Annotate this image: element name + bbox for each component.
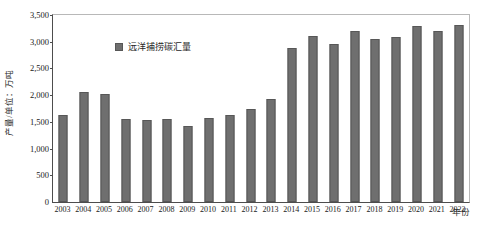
y-tick-mark (50, 122, 53, 123)
x-tick-label: 2004 (75, 205, 91, 214)
bar[interactable] (225, 115, 234, 202)
bar[interactable] (142, 120, 151, 202)
y-axis-tick-labels: 05001,0001,5002,0002,5003,0003,500 (14, 0, 52, 210)
plot-area: 远洋捕捞碳汇量 (52, 14, 470, 203)
x-tick-label: 2015 (304, 205, 320, 214)
bar[interactable] (288, 48, 297, 202)
bar[interactable] (246, 109, 255, 202)
x-axis-title: 年份 (452, 205, 470, 217)
x-tick-label: 2014 (283, 205, 299, 214)
bar-slot (323, 15, 344, 202)
bar-slot (219, 15, 240, 202)
legend: 远洋捕捞碳汇量 (115, 40, 191, 53)
y-tick-label: 0 (45, 197, 49, 207)
bar-slot (303, 15, 324, 202)
x-tick-label: 2021 (429, 205, 445, 214)
bar[interactable] (121, 119, 130, 202)
bar-slot (261, 15, 282, 202)
y-tick-label: 2,000 (30, 90, 49, 100)
x-tick-label: 2007 (138, 205, 154, 214)
bar[interactable] (80, 92, 89, 202)
y-tick-mark (50, 42, 53, 43)
x-tick-label: 2018 (366, 205, 382, 214)
bar-chart-figure: 产量/单位：万吨 05001,0001,5002,0002,5003,0003,… (0, 0, 482, 237)
y-tick-label: 1,500 (30, 117, 49, 127)
x-tick-label: 2013 (262, 205, 278, 214)
bar[interactable] (454, 25, 463, 202)
legend-label: 远洋捕捞碳汇量 (128, 40, 191, 53)
bar[interactable] (308, 36, 317, 202)
y-tick-mark (50, 149, 53, 150)
y-tick-mark (50, 15, 53, 16)
bar-slot (199, 15, 220, 202)
y-tick-mark (50, 175, 53, 176)
x-tick-label: 2016 (325, 205, 341, 214)
x-tick-label: 2008 (158, 205, 174, 214)
x-tick-label: 2010 (200, 205, 216, 214)
x-tick-label: 2011 (221, 205, 237, 214)
bar-slot (95, 15, 116, 202)
bar[interactable] (163, 119, 172, 202)
bar[interactable] (329, 44, 338, 202)
bar[interactable] (100, 94, 109, 202)
bar-slot (407, 15, 428, 202)
x-tick-label: 2019 (387, 205, 403, 214)
bar[interactable] (392, 37, 401, 202)
x-tick-label: 2017 (346, 205, 362, 214)
y-tick-label: 3,000 (30, 37, 49, 47)
bar[interactable] (204, 118, 213, 202)
x-tick-label: 2003 (54, 205, 70, 214)
bar-slot (365, 15, 386, 202)
bar[interactable] (59, 115, 68, 202)
bar[interactable] (350, 31, 359, 202)
bar[interactable] (433, 31, 442, 202)
bar-slot (74, 15, 95, 202)
y-tick-mark (50, 95, 53, 96)
bar[interactable] (267, 99, 276, 202)
bar[interactable] (371, 39, 380, 202)
x-tick-label: 2020 (408, 205, 424, 214)
x-tick-label: 2005 (96, 205, 112, 214)
bar[interactable] (184, 126, 193, 202)
x-tick-label: 2006 (117, 205, 133, 214)
bar-slot (53, 15, 74, 202)
y-tick-mark (50, 68, 53, 69)
bar-slot (344, 15, 365, 202)
bar-slot (427, 15, 448, 202)
y-tick-label: 2,500 (30, 63, 49, 73)
x-axis-tick-labels: 2003200420052006200720082009201020112012… (52, 205, 470, 221)
x-tick-label: 2009 (179, 205, 195, 214)
bar-slot (448, 15, 469, 202)
y-axis-title-text: 产量/单位：万吨 (2, 70, 14, 135)
x-tick-label: 2012 (242, 205, 258, 214)
bar-slot (240, 15, 261, 202)
y-tick-label: 3,500 (30, 10, 49, 20)
y-tick-label: 500 (36, 170, 49, 180)
legend-swatch-icon (115, 43, 123, 51)
y-tick-label: 1,000 (30, 144, 49, 154)
bar[interactable] (412, 26, 421, 202)
bar-slot (282, 15, 303, 202)
bar-slot (386, 15, 407, 202)
